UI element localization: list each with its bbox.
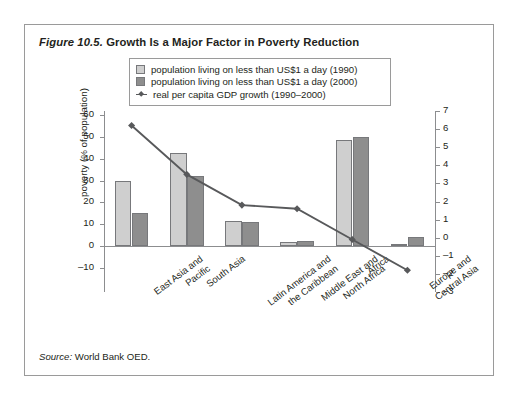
left-tick-mark — [100, 224, 104, 225]
dark-square-icon — [136, 77, 145, 86]
bar — [132, 213, 149, 246]
right-tick-label: 1 — [443, 213, 467, 224]
bar — [242, 222, 259, 246]
source-prefix: Source: — [39, 351, 72, 362]
right-tick-mark — [436, 147, 440, 148]
figure-title: Figure 10.5. Growth Is a Major Factor in… — [39, 36, 359, 48]
bar — [115, 181, 132, 246]
left-tick-mark — [100, 137, 104, 138]
left-tick-mark — [100, 268, 104, 269]
diamond-marker — [294, 205, 301, 212]
right-tick-label: 6 — [443, 122, 467, 133]
legend-label: population living on less than US$1 a da… — [151, 64, 357, 75]
left-axis-title: poverty (% of population) — [78, 73, 89, 213]
left-tick-label: 50 — [60, 130, 94, 141]
legend-item-pov2000: population living on less than US$1 a da… — [136, 76, 384, 89]
left-tick-mark — [100, 115, 104, 116]
bar — [336, 140, 353, 246]
right-tick-mark — [436, 183, 440, 184]
right-tick-label: 4 — [443, 158, 467, 169]
left-tick-mark — [100, 246, 104, 247]
bar — [353, 137, 370, 246]
bar — [170, 153, 187, 246]
bar — [391, 244, 408, 246]
diamond-marker — [404, 267, 411, 274]
right-tick-label: 2 — [443, 195, 467, 206]
figure-page: Figure 10.5. Growth Is a Major Factor in… — [0, 0, 516, 412]
bar — [225, 221, 242, 246]
figure-title-text: Growth Is a Major Factor in Poverty Redu… — [106, 36, 359, 48]
x-axis-label: East Asia andPacific — [151, 253, 211, 306]
diamond-marker — [238, 202, 245, 209]
bar — [187, 176, 204, 246]
right-tick-mark — [436, 220, 440, 221]
right-tick-label: 3 — [443, 176, 467, 187]
left-tick-label: 60 — [60, 108, 94, 119]
light-square-icon — [136, 65, 145, 74]
bar — [297, 241, 314, 246]
legend-item-pov1990: population living on less than US$1 a da… — [136, 63, 384, 76]
diamond-marker — [128, 122, 135, 129]
legend-item-gdp-growth: real per capita GDP growth (1990–2000) — [136, 88, 384, 101]
figure-number: Figure 10.5. — [39, 36, 103, 48]
left-tick-mark — [100, 202, 104, 203]
legend-label: population living on less than US$1 a da… — [151, 76, 357, 87]
line-diamond-icon — [136, 90, 147, 99]
left-tick-mark — [100, 159, 104, 160]
source-note: Source: World Bank OED. — [39, 351, 150, 362]
left-tick-label: –10 — [60, 261, 94, 272]
figure-frame: Figure 10.5. Growth Is a Major Factor in… — [24, 24, 494, 376]
left-tick-label: 40 — [60, 152, 94, 163]
zero-baseline — [104, 246, 436, 247]
right-tick-mark — [436, 202, 440, 203]
bar — [408, 237, 425, 246]
right-tick-mark — [436, 256, 440, 257]
right-tick-mark — [436, 129, 440, 130]
right-tick-mark — [436, 238, 440, 239]
right-tick-label: 0 — [443, 231, 467, 242]
legend-label: real per capita GDP growth (1990–2000) — [153, 89, 326, 100]
right-tick-mark — [436, 165, 440, 166]
chart-legend: population living on less than US$1 a da… — [129, 58, 391, 106]
right-tick-label: 7 — [443, 104, 467, 115]
bar — [280, 242, 297, 246]
right-tick-mark — [436, 111, 440, 112]
left-y-axis — [104, 111, 105, 292]
right-tick-label: 5 — [443, 140, 467, 151]
left-tick-mark — [100, 181, 104, 182]
source-text: World Bank OED. — [75, 351, 151, 362]
left-tick-label: 20 — [60, 195, 94, 206]
left-tick-label: 0 — [60, 239, 94, 250]
left-tick-label: 10 — [60, 217, 94, 228]
left-tick-label: 30 — [60, 174, 94, 185]
